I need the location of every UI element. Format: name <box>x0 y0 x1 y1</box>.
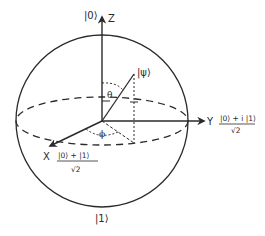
psi-label: |ψ⟩ <box>137 67 151 79</box>
theta-arc <box>102 83 123 90</box>
x-state-denominator: √2 <box>71 165 81 174</box>
z-axis-label: Z <box>108 13 115 24</box>
z-state-label: |0⟩ <box>84 10 98 22</box>
bottom-state-label: |1⟩ <box>95 213 109 225</box>
y-state-denominator: √2 <box>231 126 241 135</box>
y-state-numerator: |0⟩ + i |1⟩ <box>220 114 256 123</box>
bloch-sphere-diagram: |0⟩ Z |ψ⟩ θ ϕ Y |0⟩ + i |1⟩ √2 X |0⟩ + |… <box>0 0 265 236</box>
x-state-numerator: |0⟩ + |1⟩ <box>58 151 90 160</box>
phi-label: ϕ <box>99 129 105 139</box>
theta-label: θ <box>107 90 112 100</box>
x-axis-label: X <box>43 151 50 162</box>
y-axis-label: Y <box>206 116 214 127</box>
